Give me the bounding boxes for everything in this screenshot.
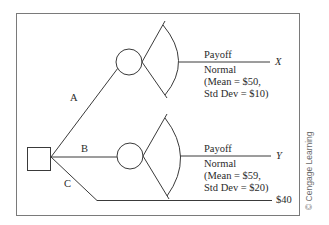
distribution-stddev-a: Std Dev = $10) <box>204 88 269 100</box>
distribution-arc-a <box>163 25 179 95</box>
outcome-var-y: Y <box>276 150 282 162</box>
distribution-mean-a: (Mean = $50, <box>204 76 269 88</box>
chance-node-a <box>116 49 142 75</box>
payoff-block-b: Payoff Normal (Mean = $59, Std Dev = $20… <box>204 143 269 194</box>
decision-tree-figure: A B C Payoff Normal (Mean = $50, Std Dev… <box>0 0 329 225</box>
fan-a-lower <box>142 62 167 98</box>
payoff-block-a: Payoff Normal (Mean = $50, Std Dev = $10… <box>204 49 269 100</box>
distribution-arc-b <box>165 118 181 196</box>
payoff-label-b: Payoff <box>204 143 269 155</box>
branch-b-label: B <box>81 143 88 155</box>
copyright-credit: © Cengage Learning <box>304 131 314 210</box>
payoff-label-a: Payoff <box>204 49 269 61</box>
fan-a-upper <box>142 21 165 62</box>
decision-node-square <box>28 148 51 171</box>
chance-node-b <box>117 143 143 169</box>
branch-a-label: A <box>70 92 78 104</box>
decision-tree-graphic <box>0 0 329 225</box>
branch-c-label: C <box>64 178 71 190</box>
distribution-mean-b: (Mean = $59, <box>204 170 269 182</box>
fan-b-upper <box>143 114 167 156</box>
fan-b-lower <box>143 156 169 199</box>
distribution-stddev-b: Std Dev = $20) <box>204 182 269 194</box>
distribution-name-b: Normal <box>204 158 269 170</box>
distribution-name-a: Normal <box>204 64 269 76</box>
outcome-var-x: X <box>275 56 281 68</box>
payoff-c-value: $40 <box>276 194 292 206</box>
